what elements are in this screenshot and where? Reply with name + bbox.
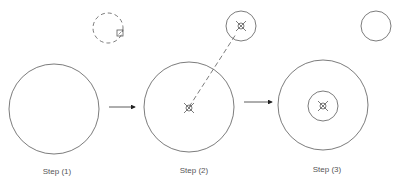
diagram-canvas [0, 0, 403, 189]
step-1-handle-glyph-icon [119, 32, 122, 35]
step-2-tool-marker-icon [236, 21, 246, 31]
step-3-label: Step (3) [313, 165, 341, 174]
step-3-original-tool-circle [361, 11, 391, 41]
step-2-center-marker-icon [184, 103, 194, 113]
step-3-target-circle [278, 60, 368, 150]
step-1-target-circle [9, 64, 99, 154]
step-3-center-marker-icon [318, 101, 328, 111]
step-2-move-path-dashed [189, 34, 236, 107]
step-2-label: Step (2) [180, 166, 208, 175]
step-1-label: Step (1) [43, 167, 71, 176]
step-1-tool-circle-dashed [93, 13, 123, 43]
